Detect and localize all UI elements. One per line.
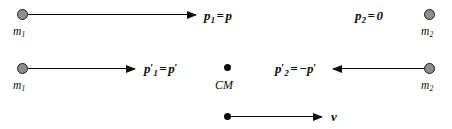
mass-circle-m1-row2 (17, 63, 28, 74)
momentum-arrow-p1-row1 (28, 14, 196, 15)
center-of-mass-dot (224, 64, 231, 71)
velocity-arrow-v (230, 116, 322, 117)
momentum-diagram: m1 p1=p p2=0 m2 m1 p′1=p′ CM p′2=−p′ m2 … (0, 0, 452, 129)
momentum-arrow-p2-prime-row2 (333, 68, 425, 69)
velocity-label-v: v (331, 110, 337, 123)
momentum-label-p1-prime-row2: p′1=p′ (144, 62, 177, 78)
momentum-label-p1-row1: p1=p (204, 9, 232, 24)
momentum-label-p2-row1: p2=0 (355, 9, 383, 24)
mass-label-m1-row2: m1 (13, 80, 25, 93)
mass-label-m2-row2: m2 (421, 80, 433, 93)
mass-label-m1-row1: m1 (13, 26, 25, 39)
momentum-label-p2-prime-row2: p′2=−p′ (275, 62, 316, 78)
center-of-mass-label: CM (215, 79, 233, 91)
mass-label-m2-row1: m2 (421, 26, 433, 39)
momentum-arrow-p1-prime-row2 (28, 68, 135, 69)
mass-circle-m2-row1 (424, 9, 435, 20)
mass-circle-m2-row2 (424, 63, 435, 74)
mass-circle-m1-row1 (17, 9, 28, 20)
